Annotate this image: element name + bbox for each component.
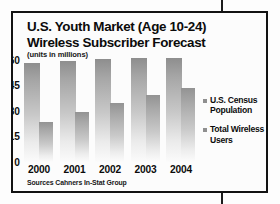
bar-group-2002: [95, 61, 125, 162]
source-note: Sources Cahners In-Stat Group: [27, 179, 127, 186]
y-axis-tick-45: 45: [11, 81, 20, 91]
legend-item-label: U.S. Census Population: [210, 95, 268, 115]
legend-item-label: Total Wireless Users: [210, 124, 268, 144]
x-axis-tick-2003: 2003: [131, 164, 161, 175]
legend-swatch-icon: [203, 128, 207, 132]
bar-2000-series-2: [39, 122, 53, 162]
legend-swatch-icon: [203, 99, 207, 103]
y-axis-tick-0: 0: [14, 158, 20, 168]
x-axis-tick-2000: 2000: [24, 164, 54, 175]
y-axis-tick-60: 60: [11, 56, 20, 66]
page: U.S. Youth Market (Age 10-24) Wireless S…: [0, 0, 280, 204]
bar-2001-series-2: [75, 112, 89, 162]
bar-2000-series-1: [24, 63, 40, 162]
bar-2003-series-2: [146, 95, 160, 162]
legend-item-1: U.S. Census Population: [203, 95, 268, 115]
page-edge-mark-bottom: [221, 193, 223, 204]
bar-group-2001: [60, 61, 90, 162]
x-axis-tick-2002: 2002: [95, 164, 125, 175]
x-axis-tick-2004: 2004: [166, 164, 196, 175]
x-axis-ticks: 20002001200220032004: [24, 164, 196, 175]
y-axis-tick-30: 30: [11, 106, 20, 116]
y-axis-tick-15: 15: [11, 132, 20, 142]
bar-groups: [24, 61, 196, 162]
bar-2003-series-1: [131, 58, 147, 162]
legend-item-2: Total Wireless Users: [203, 124, 268, 144]
chart-title: U.S. Youth Market (Age 10-24) Wireless S…: [27, 19, 237, 50]
chart-title-line-1: U.S. Youth Market (Age 10-24): [27, 19, 237, 35]
chart-subtitle: (units in millions): [27, 50, 88, 59]
bar-2004-series-2: [181, 88, 195, 162]
chart-title-line-2: Wireless Subscriber Forecast: [27, 35, 237, 51]
bar-2001-series-1: [60, 61, 76, 162]
x-axis-tick-2001: 2001: [60, 164, 90, 175]
bar-2002-series-1: [95, 59, 111, 162]
chart-legend: U.S. Census PopulationTotal Wireless Use…: [203, 95, 268, 154]
bar-2004-series-1: [166, 58, 182, 162]
bar-group-2004: [166, 61, 196, 162]
plot-area: 604530150: [24, 61, 196, 162]
page-edge-mark-top: [221, 0, 223, 11]
bar-group-2000: [24, 61, 54, 162]
bar-2002-series-2: [110, 103, 124, 162]
bar-group-2003: [131, 61, 161, 162]
chart-frame: U.S. Youth Market (Age 10-24) Wireless S…: [11, 11, 268, 193]
